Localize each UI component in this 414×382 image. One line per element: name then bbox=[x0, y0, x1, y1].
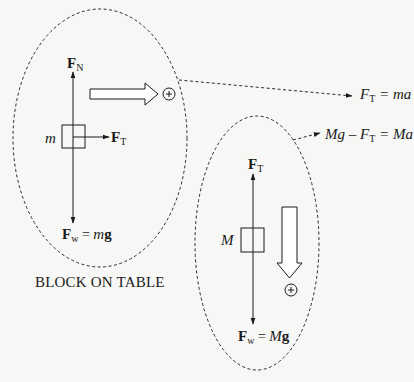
connector-to-equation-1 bbox=[179, 80, 352, 96]
mass-symbol: M bbox=[269, 328, 282, 344]
force-symbol: F bbox=[248, 156, 257, 172]
force-symbol: F bbox=[238, 328, 247, 344]
weight-equation-m: Fw = mg bbox=[62, 227, 112, 244]
equation-lhs: F bbox=[360, 86, 369, 102]
force-symbol: F bbox=[111, 129, 120, 145]
weight-equation-M: Fw = Mg bbox=[238, 329, 289, 346]
force-subscript: w bbox=[71, 233, 78, 244]
connector-to-equation-2 bbox=[293, 133, 320, 140]
mass-label-M: M bbox=[221, 233, 234, 248]
positive-sign-icon bbox=[285, 284, 297, 296]
force-subscript: T bbox=[257, 163, 263, 174]
block-on-table-caption: BLOCK ON TABLE bbox=[35, 275, 165, 290]
gravity-vector: g bbox=[282, 328, 290, 344]
equation-rhs: = Ma bbox=[375, 126, 413, 142]
equation-block-on-table: FT = ma bbox=[360, 87, 411, 104]
force-symbol: F bbox=[67, 55, 76, 71]
tension-force-label-M: FT bbox=[248, 157, 263, 174]
equation-hanging-block: Mg – FT = Ma bbox=[325, 127, 413, 144]
tension-force-label-m: FT bbox=[111, 130, 126, 147]
equals-sign: = bbox=[82, 227, 90, 242]
equals-sign: = bbox=[258, 329, 266, 344]
mass-symbol: m bbox=[93, 226, 104, 242]
equation-lhs: Mg – F bbox=[325, 126, 369, 142]
free-body-diagram: FN m FT Fw = mg BLOCK ON TABLE FT M Fw =… bbox=[0, 0, 414, 382]
positive-sign-icon bbox=[163, 88, 175, 100]
force-subscript: N bbox=[76, 62, 83, 73]
gravity-vector: g bbox=[104, 226, 112, 242]
positive-direction-arrow-right bbox=[90, 83, 158, 105]
diagram-graphics bbox=[0, 0, 414, 382]
force-symbol: F bbox=[62, 226, 71, 242]
force-subscript: T bbox=[120, 136, 126, 147]
mass-label-m: m bbox=[45, 131, 56, 146]
normal-force-label: FN bbox=[67, 56, 83, 73]
force-subscript: w bbox=[247, 335, 254, 346]
positive-direction-arrow-down bbox=[277, 207, 302, 278]
equation-rhs: = ma bbox=[375, 86, 411, 102]
